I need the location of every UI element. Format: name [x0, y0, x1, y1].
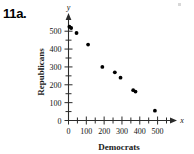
y-axis-tick-labels: 0100200300400500	[50, 27, 62, 125]
data-point	[113, 70, 117, 74]
y-axis-variable-label: y	[66, 3, 71, 12]
x-axis-variable-label: x	[179, 116, 184, 125]
data-point	[153, 109, 157, 113]
x-tick-label: 300	[116, 127, 128, 136]
data-point	[86, 43, 90, 47]
x-tick-label: 500	[152, 127, 164, 136]
data-point	[100, 65, 104, 69]
x-axis-title: Democrats	[98, 142, 140, 152]
y-tick-label: 400	[50, 45, 62, 54]
y-axis-title: Republicans	[36, 48, 46, 96]
x-axis-arrowhead	[170, 118, 177, 124]
y-tick-label: 100	[50, 99, 62, 108]
scatter-plot-canvas: 0100200300400500 0100200300400500 Democr…	[0, 0, 194, 154]
data-point	[119, 76, 123, 80]
y-tick-label: 0	[58, 117, 62, 126]
x-tick-label: 400	[134, 127, 146, 136]
x-tick-label: 200	[98, 127, 110, 136]
x-tick-label: 0	[67, 127, 71, 136]
data-point	[75, 31, 79, 35]
data-points	[67, 25, 156, 113]
y-tick-label: 500	[50, 27, 62, 36]
x-tick-label: 100	[80, 127, 92, 136]
data-point	[134, 90, 138, 94]
scatter-plot-figure: 11a. 0100200300400500 0100200300400500 D…	[0, 0, 194, 154]
plot-axes	[66, 13, 177, 123]
x-axis-tick-labels: 0100200300400500	[67, 127, 164, 136]
y-tick-label: 300	[50, 63, 62, 72]
y-axis-arrowhead	[66, 13, 72, 20]
data-point	[69, 26, 73, 30]
y-tick-label: 200	[50, 81, 62, 90]
